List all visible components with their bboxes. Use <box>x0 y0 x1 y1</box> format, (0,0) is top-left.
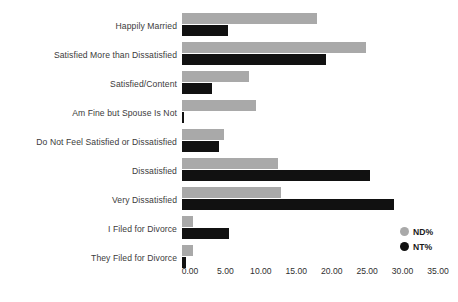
category-label: I Filed for Divorce <box>108 224 177 234</box>
chart-legend: ND%NT% <box>400 224 433 254</box>
x-axis: 0.005.0010.0015.0020.0025.0030.0035.00 <box>0 266 458 282</box>
bar-chart: Happily MarriedSatisfied More than Dissa… <box>0 0 458 302</box>
bar-group <box>182 100 256 123</box>
category-label: Happily Married <box>116 21 177 31</box>
chart-row: Satisfied More than Dissatisfied <box>0 40 458 69</box>
legend-item[interactable]: ND% <box>400 224 433 239</box>
bar-nd <box>182 158 278 169</box>
chart-row: Dissatisfied <box>0 156 458 185</box>
bar-group <box>182 245 193 268</box>
category-label: Am Fine but Spouse Is Not <box>72 108 177 118</box>
chart-row: Satisfied/Content <box>0 69 458 98</box>
plot-area: Happily MarriedSatisfied More than Dissa… <box>0 0 458 302</box>
bar-nt <box>182 199 394 210</box>
legend-marker-icon <box>400 242 409 251</box>
legend-label: ND% <box>413 227 433 237</box>
bar-nt <box>182 170 370 181</box>
legend-marker-icon <box>400 227 409 236</box>
x-tick-label: 15.00 <box>286 266 308 276</box>
chart-row: Happily Married <box>0 11 458 40</box>
bar-group <box>182 187 394 210</box>
bar-nt <box>182 54 326 65</box>
bar-nd <box>182 129 224 140</box>
category-label: Satisfied More than Dissatisfied <box>54 50 177 60</box>
bar-group <box>182 71 249 94</box>
chart-row: Very Dissatisfied <box>0 185 458 214</box>
bar-nt <box>182 228 229 239</box>
chart-row: Do Not Feel Satisfied or Dissatisfied <box>0 127 458 156</box>
bar-nd <box>182 100 256 111</box>
bar-nd <box>182 42 366 53</box>
bar-nd <box>182 71 249 82</box>
bar-group <box>182 13 317 36</box>
category-label: They Filed for Divorce <box>91 253 177 263</box>
x-tick-label: 20.00 <box>321 266 343 276</box>
bar-nt <box>182 25 228 36</box>
bar-group <box>182 129 224 152</box>
bar-nt <box>182 141 219 152</box>
bar-nd <box>182 13 317 24</box>
bar-nt <box>182 112 184 123</box>
category-label: Do Not Feel Satisfied or Dissatisfied <box>36 137 177 147</box>
x-tick-label: 30.00 <box>392 266 414 276</box>
chart-row: I Filed for Divorce <box>0 214 458 243</box>
chart-row: Am Fine but Spouse Is Not <box>0 98 458 127</box>
legend-item[interactable]: NT% <box>400 239 433 254</box>
bar-nd <box>182 245 193 256</box>
bar-group <box>182 216 229 239</box>
legend-label: NT% <box>413 242 432 252</box>
category-label: Satisfied/Content <box>110 79 177 89</box>
bar-group <box>182 42 366 65</box>
bar-nd <box>182 187 281 198</box>
x-tick-label: 5.00 <box>217 266 234 276</box>
x-tick-label: 0.00 <box>182 266 199 276</box>
x-tick-label: 10.00 <box>250 266 272 276</box>
x-tick-label: 35.00 <box>427 266 449 276</box>
category-label: Very Dissatisfied <box>112 195 177 205</box>
x-tick-label: 25.00 <box>356 266 378 276</box>
bar-nd <box>182 216 193 227</box>
bar-nt <box>182 83 212 94</box>
category-label: Dissatisfied <box>132 166 177 176</box>
bar-group <box>182 158 370 181</box>
